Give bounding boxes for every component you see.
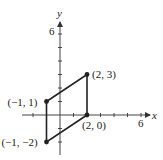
- point-label: (−1, −2): [2, 136, 39, 149]
- y-tick-label-6: 6: [49, 25, 55, 37]
- y-axis-label: y: [56, 7, 62, 19]
- chart: (−1, 1)(2, 3)(2, 0)(−1, −2) x y 6 6: [0, 0, 163, 160]
- point-label: (2, 3): [92, 68, 116, 81]
- x-axis-label: x: [151, 109, 157, 121]
- point-label: (2, 0): [82, 119, 106, 132]
- x-tick-label-6: 6: [138, 117, 144, 129]
- point-label: (−1, 1): [8, 96, 38, 109]
- data-point: [44, 140, 49, 145]
- data-point: [85, 72, 90, 77]
- data-point: [85, 113, 90, 118]
- plot-area: (−1, 1)(2, 3)(2, 0)(−1, −2) x y 6 6: [0, 0, 163, 160]
- data-points: (−1, 1)(2, 3)(2, 0)(−1, −2): [2, 68, 117, 150]
- parallelogram: [47, 75, 88, 143]
- data-point: [44, 99, 49, 104]
